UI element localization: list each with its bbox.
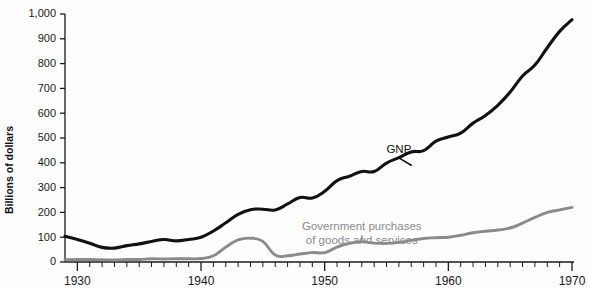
y-tick-label: 1,000 bbox=[28, 7, 56, 19]
chart-background bbox=[0, 0, 590, 290]
y-tick-label: 500 bbox=[38, 131, 56, 143]
y-tick-label: 600 bbox=[38, 107, 56, 119]
y-tick-label: 100 bbox=[38, 231, 56, 243]
y-tick-label: 900 bbox=[38, 32, 56, 44]
x-tick-label: 1960 bbox=[435, 274, 462, 288]
y-tick-label: 700 bbox=[38, 82, 56, 94]
y-tick-label: 300 bbox=[38, 181, 56, 193]
chart-container: 01002003004005006007008009001,000 193019… bbox=[0, 0, 590, 290]
x-tick-label: 1930 bbox=[64, 274, 91, 288]
x-tick-label: 1950 bbox=[311, 274, 338, 288]
y-axis-title: Billions of dollars bbox=[3, 126, 15, 214]
x-tick-label: 1940 bbox=[188, 274, 215, 288]
y-tick-label: 200 bbox=[38, 206, 56, 218]
government-series-label-line1: Government purchases bbox=[302, 220, 422, 232]
x-tick-label: 1970 bbox=[559, 274, 586, 288]
y-tick-label: 400 bbox=[38, 156, 56, 168]
y-tick-label: 0 bbox=[50, 255, 56, 267]
gnp-line-chart: 01002003004005006007008009001,000 193019… bbox=[0, 0, 590, 290]
y-tick-label: 800 bbox=[38, 57, 56, 69]
gnp-series-label: GNP bbox=[386, 143, 411, 155]
